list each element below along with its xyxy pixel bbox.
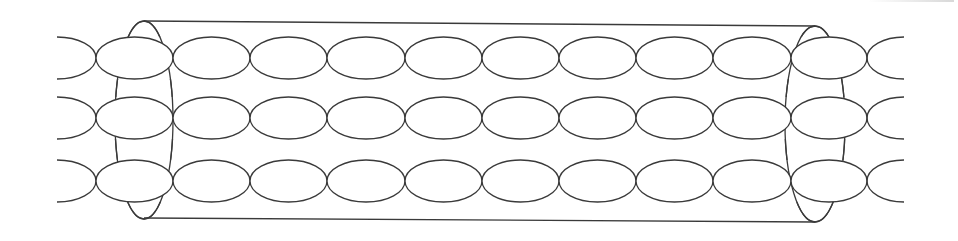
chain-ellipse — [327, 160, 405, 202]
chain-ellipse — [173, 160, 250, 202]
chain-ellipse — [559, 97, 636, 139]
chain-row-3 — [57, 160, 904, 202]
chain-ellipse — [250, 97, 327, 139]
left-tube-cap-segment — [116, 139, 118, 160]
chain-ellipse — [482, 97, 559, 139]
chain-ellipse — [96, 160, 173, 202]
chain-ellipse — [405, 37, 482, 79]
chain-ellipse — [96, 97, 173, 139]
chain-ellipse — [327, 97, 405, 139]
chain-ellipse — [791, 37, 867, 79]
tube-top-line — [144, 21, 815, 26]
right-tube-cap-segment — [785, 139, 787, 160]
chain-ellipse — [791, 160, 867, 202]
chain-ellipse-partial — [867, 160, 904, 202]
chain-ellipse — [559, 160, 636, 202]
tube-chain-diagram — [0, 0, 958, 241]
chain-ellipse-partial — [867, 97, 904, 139]
chain-row-1 — [57, 37, 904, 79]
chain-ellipse — [327, 37, 405, 79]
chain-ellipse — [636, 160, 713, 202]
chain-ellipse-partial — [57, 160, 96, 202]
chain-ellipse-partial — [57, 37, 96, 79]
left-tube-cap-segment — [116, 79, 118, 97]
right-tube-cap-segment — [797, 202, 815, 222]
left-tube-cap-segment — [170, 79, 172, 97]
chain-ellipse — [713, 37, 791, 79]
left-tube-cap-segment — [144, 21, 160, 37]
chain-ellipse — [405, 97, 482, 139]
chain-ellipse — [250, 160, 327, 202]
chain-row-2 — [57, 97, 904, 139]
tube-bottom-line — [144, 218, 815, 222]
chain-ellipse-partial — [867, 37, 904, 79]
chain-ellipse — [559, 37, 636, 79]
left-tube-cap-segment — [171, 139, 173, 160]
chain-ellipse — [713, 160, 791, 202]
chain-ellipse — [173, 37, 250, 79]
chain-ellipse — [250, 37, 327, 79]
chain-ellipse — [405, 160, 482, 202]
chain-ellipse — [636, 37, 713, 79]
chain-ellipse-partial — [57, 97, 96, 139]
left-tube-cap-segment — [144, 202, 160, 219]
left-tube-cap-segment — [128, 21, 144, 37]
chain-ellipse — [636, 97, 713, 139]
right-tube-cap-segment — [843, 139, 845, 160]
chain-ellipse — [713, 97, 791, 139]
left-tube-cap-segment — [128, 202, 144, 219]
chain-ellipse — [173, 97, 250, 139]
chain-ellipse — [96, 37, 173, 79]
right-tube-cap-segment — [815, 202, 833, 222]
chain-ellipse — [482, 160, 559, 202]
chain-ellipse — [791, 97, 867, 139]
chain-ellipse — [482, 37, 559, 79]
ellipse-chains — [57, 37, 904, 202]
